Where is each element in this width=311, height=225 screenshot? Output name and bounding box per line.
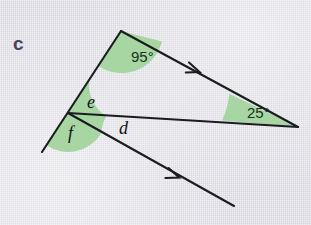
- angle-label-d: d: [119, 118, 129, 138]
- line-upper-parallel: [121, 31, 298, 127]
- angle-label-25: 25°: [247, 104, 270, 121]
- diagram-canvas: c 95° 25° e f d: [0, 0, 311, 225]
- line-lower-parallel: [68, 113, 234, 206]
- geometry-figure: c 95° 25° e f d: [0, 0, 311, 225]
- angle-wedges: [46, 31, 298, 152]
- angle-label-95: 95°: [131, 48, 154, 65]
- figure-text-labels: c 95° 25° e f d: [13, 33, 270, 143]
- part-label-c: c: [13, 33, 24, 54]
- angle-label-e: e: [87, 92, 95, 112]
